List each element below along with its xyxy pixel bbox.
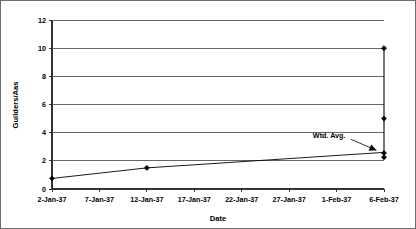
y-tick-label: 4 (42, 128, 46, 137)
x-tick-label: 7-Jan-37 (85, 195, 114, 204)
y-axis-title: Guilders/Aas (11, 82, 20, 129)
x-tick-label: 2-Jan-37 (37, 195, 66, 204)
y-tick-group: 024681012 (38, 16, 52, 194)
x-tick-group: 2-Jan-377-Jan-3712-Jan-3717-Jan-3722-Jan… (37, 189, 398, 204)
chart-plot: 024681012 2-Jan-377-Jan-3712-Jan-3717-Ja… (1, 1, 416, 229)
chart-container: 024681012 2-Jan-377-Jan-3712-Jan-3717-Ja… (0, 0, 416, 229)
y-tick-label: 10 (38, 44, 46, 53)
y-tick-label: 8 (42, 72, 46, 81)
y-tick-label: 6 (42, 100, 46, 109)
y-tick-label: 2 (42, 156, 46, 165)
x-tick-label: 27-Jan-37 (273, 195, 306, 204)
x-tick-label: 17-Jan-37 (178, 195, 211, 204)
y-tick-label: 0 (42, 185, 46, 194)
x-axis-title: Date (210, 214, 226, 223)
x-tick-label: 6-Feb-37 (369, 195, 399, 204)
x-tick-label: 1-Feb-37 (322, 195, 352, 204)
wtd-avg-annotation-label: Wtd. Avg. (313, 131, 346, 140)
y-tick-label: 12 (38, 16, 46, 25)
x-tick-label: 12-Jan-37 (130, 195, 163, 204)
x-tick-label: 22-Jan-37 (225, 195, 258, 204)
